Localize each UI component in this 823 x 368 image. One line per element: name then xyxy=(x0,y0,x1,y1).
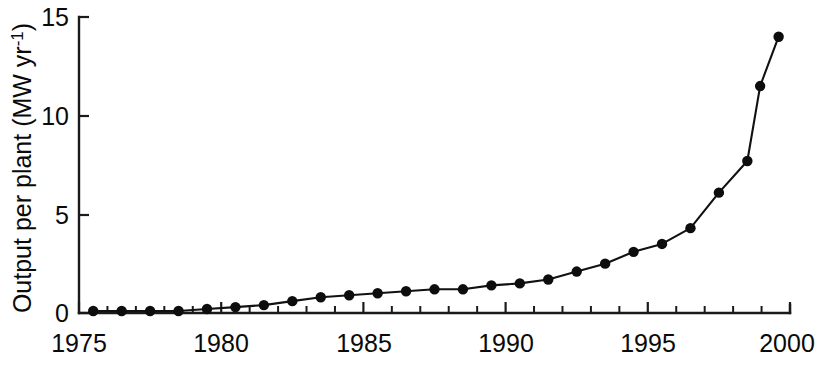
data-point xyxy=(116,306,126,316)
data-point xyxy=(88,306,98,316)
data-point xyxy=(515,278,525,288)
data-point xyxy=(259,300,269,310)
data-point xyxy=(145,306,155,316)
chart-axes xyxy=(79,17,790,313)
y-axis-label-superscript: -1 xyxy=(8,31,27,46)
data-point xyxy=(316,292,326,302)
data-point xyxy=(429,284,439,294)
data-series-group xyxy=(88,32,784,317)
data-point xyxy=(486,280,496,290)
y-tick-label-10: 10 xyxy=(41,102,69,130)
data-point xyxy=(230,302,240,312)
chart-figure: Output per plant (MW yr-1) 15 10 5 0 197… xyxy=(0,0,823,368)
x-tick-label-1990: 1990 xyxy=(478,329,534,357)
y-tick-label-15: 15 xyxy=(41,3,69,31)
data-point xyxy=(287,296,297,306)
data-point xyxy=(600,258,610,268)
data-line-output-per-plant xyxy=(93,37,778,311)
x-tick-label-1980: 1980 xyxy=(193,329,249,357)
y-tick-label-5: 5 xyxy=(55,201,69,229)
x-tick-label-1995: 1995 xyxy=(620,329,676,357)
x-axis-tick-labels: 1975 1980 1985 1990 1995 2000 xyxy=(51,329,815,357)
y-axis-label: Output per plant (MW yr-1) xyxy=(8,23,36,313)
x-tick-label-1985: 1985 xyxy=(336,329,392,357)
data-point xyxy=(628,247,638,257)
data-point xyxy=(173,306,183,316)
data-point xyxy=(401,286,411,296)
data-point xyxy=(344,290,354,300)
data-markers-group xyxy=(88,32,784,317)
y-axis-ticks xyxy=(79,17,89,313)
y-axis-label-main: Output per plant (MW yr xyxy=(8,46,36,313)
data-point xyxy=(742,156,752,166)
data-point xyxy=(458,284,468,294)
data-point xyxy=(685,223,695,233)
line-chart-plot: Output per plant (MW yr-1) 15 10 5 0 197… xyxy=(0,0,823,368)
data-point xyxy=(372,288,382,298)
data-point xyxy=(714,187,724,197)
y-axis-label-tail: ) xyxy=(8,23,36,31)
data-point xyxy=(572,266,582,276)
svg-text:Output per plant (MW yr-1): Output per plant (MW yr-1) xyxy=(8,23,36,313)
data-point xyxy=(543,274,553,284)
data-point xyxy=(755,81,765,91)
x-tick-label-1975: 1975 xyxy=(51,329,107,357)
data-point xyxy=(202,304,212,314)
y-axis-tick-labels: 15 10 5 0 xyxy=(41,3,69,327)
data-point xyxy=(773,32,783,42)
data-point xyxy=(657,239,667,249)
x-tick-label-2000: 2000 xyxy=(759,329,815,357)
y-tick-label-0: 0 xyxy=(55,299,69,327)
